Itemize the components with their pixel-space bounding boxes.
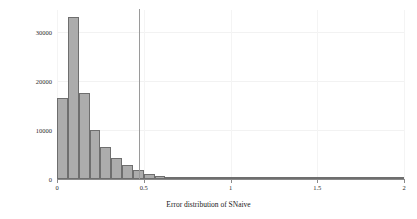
gridline-vertical: [404, 10, 405, 179]
x-axis-label: Error distribution of SNaive: [0, 200, 417, 209]
x-axis-tick: [404, 179, 405, 183]
histogram-bar: [111, 158, 122, 179]
y-axis-tick-label: 20000: [18, 78, 52, 85]
y-axis-tick-label: 30000: [18, 29, 52, 36]
plot-area: [57, 10, 404, 179]
x-axis-tick: [317, 179, 318, 183]
y-axis-tick-label: 10000: [18, 127, 52, 134]
histogram-figure: 00.511.52 0100002000030000 Count Error d…: [0, 0, 417, 219]
x-axis-tick-label: 0: [55, 184, 58, 191]
mean-reference-line: [139, 9, 140, 180]
x-axis-tick-label: 0.5: [140, 184, 148, 191]
x-axis-tick: [144, 179, 145, 183]
x-axis-tick-label: 1.5: [313, 184, 321, 191]
histogram-bar: [79, 93, 90, 179]
histogram-bar: [122, 165, 133, 179]
x-axis-tick: [231, 179, 232, 183]
histogram-bar: [57, 98, 68, 179]
x-axis-tick-label: 2: [402, 184, 405, 191]
histogram-bar: [90, 130, 101, 179]
x-axis-tick: [57, 179, 58, 183]
histogram-bar: [68, 17, 79, 179]
y-axis-tick-label: 0: [18, 176, 52, 183]
x-axis-tick-label: 1: [229, 184, 232, 191]
histogram-bars: [57, 10, 404, 179]
histogram-bar: [100, 147, 111, 179]
